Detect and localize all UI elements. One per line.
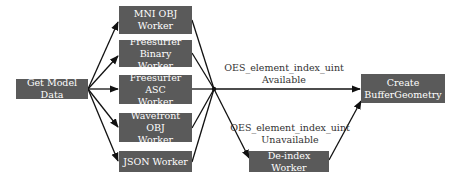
edge-get-to-wavefront [88,89,118,127]
edge-label-unavailable: OES_element_index_uint Unavailable [230,122,350,146]
edge-get-to-fsbinary [88,56,118,89]
edge-get-to-json [88,89,118,161]
node-wavefront-obj-worker: Wavefront OBJ Worker [119,113,192,142]
edge-wavefront-to-junction [192,89,214,128]
edge-label-available: OES_element_index_uint Available [224,62,344,86]
edge-mni-to-junction [192,20,214,89]
node-mni-obj-worker: MNI OBJ Worker [119,6,192,34]
junction-dot [212,87,216,91]
edge-json-to-junction [192,89,214,162]
edge-get-to-mni [88,22,118,89]
node-deindex-worker: De-index Worker [249,151,329,172]
node-json-worker: JSON Worker [119,151,192,172]
node-freesurfer-binary-worker: Freesurfer Binary Worker [119,40,192,67]
node-create-buffergeometry: Create BufferGeometry [361,74,445,103]
node-freesurfer-asc-worker: Freesurfer ASC Worker [119,75,192,104]
node-get-model-data: Get Model Data [16,79,88,99]
edge-fsbinary-to-junction [192,53,214,89]
